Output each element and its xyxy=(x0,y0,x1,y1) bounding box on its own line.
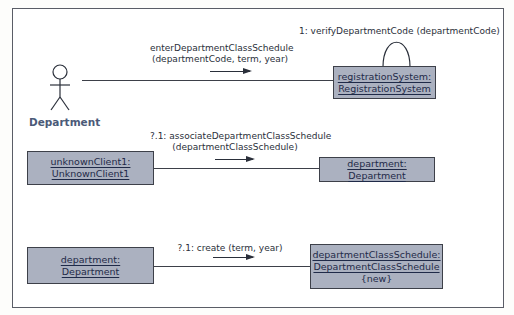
message-verify-department-code: 1: verifyDepartmentCode (departmentCode) xyxy=(299,26,499,37)
message-label-line1: enterDepartmentClassSchedule xyxy=(150,43,290,54)
message-direction-arrow-icon xyxy=(213,257,253,258)
object-department-class-schedule[interactable]: departmentClassSchedule: DepartmentClass… xyxy=(310,244,443,289)
object-name: unknownClient1: xyxy=(51,156,131,168)
message-label-line1: ?.1: create (term, year) xyxy=(170,243,290,254)
actor-label-department: Department xyxy=(29,116,100,128)
message-enter-department-class-schedule: enterDepartmentClassSchedule (department… xyxy=(150,43,290,65)
message-label-line1: ?.1: associateDepartmentClassSchedule xyxy=(150,131,320,142)
object-unknown-client1[interactable]: unknownClient1: UnknownClient1 xyxy=(27,151,154,185)
object-department-source[interactable]: department: Department xyxy=(27,247,154,284)
object-class: UnknownClient1 xyxy=(52,168,130,180)
message-create: ?.1: create (term, year) xyxy=(170,243,290,254)
object-registration-system[interactable]: registrationSystem: RegistrationSystem xyxy=(333,66,436,99)
link-actor-registration-system xyxy=(82,80,334,81)
object-name: departmentClassSchedule: xyxy=(312,249,440,261)
actor-stick-figure-icon xyxy=(48,64,76,114)
object-name: department: xyxy=(61,254,120,266)
message-label-line2: (departmentCode, term, year) xyxy=(150,54,290,65)
message-direction-arrow-icon xyxy=(215,159,253,160)
object-name: registrationSystem: xyxy=(338,71,431,83)
link-department-class-schedule xyxy=(154,266,311,267)
message-direction-arrow-icon xyxy=(210,71,250,72)
link-unknown-client-department xyxy=(154,168,320,169)
object-constraint: {new} xyxy=(361,273,393,285)
object-class: Department xyxy=(62,266,120,278)
message-label-line1: 1: verifyDepartmentCode (departmentCode) xyxy=(299,26,499,37)
self-loop-arc-icon xyxy=(381,38,413,68)
object-class: RegistrationSystem xyxy=(338,83,431,95)
object-class: DepartmentClassSchedule xyxy=(313,261,439,273)
object-department-target[interactable]: department: Department xyxy=(319,157,435,182)
object-name: department: Department xyxy=(320,158,434,182)
message-associate-department-class-schedule: ?.1: associateDepartmentClassSchedule (d… xyxy=(150,131,320,153)
message-label-line2: (departmentClassSchedule) xyxy=(150,142,320,153)
